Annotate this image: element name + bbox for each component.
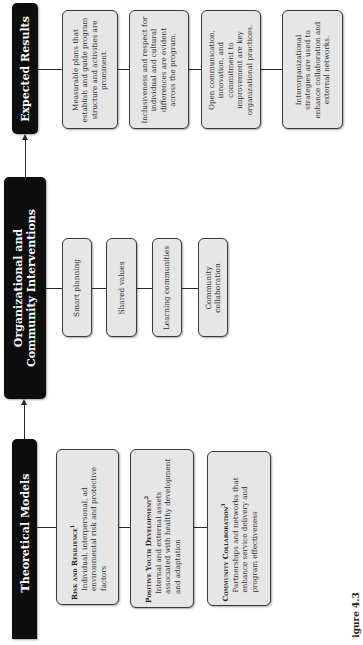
intervention-text-2: Shared values (117, 240, 126, 335)
theory-desc-1: Individual, interpersonal, ad environmen… (79, 454, 107, 600)
interventions-title: Organizational and Community Interventio… (12, 177, 38, 399)
arrow-to-results-head-icon (22, 134, 28, 140)
intervention-text-1: Smart planning (72, 240, 81, 335)
intervention-box-4: Community collaboration (198, 238, 228, 337)
expected-results-title: Expected Results (19, 3, 32, 134)
theory-title-3: Community Collaboration3 (221, 503, 230, 601)
theory-box-3: Community Collaboration3 Partnerships an… (207, 451, 271, 606)
interventions-header: Organizational and Community Interventio… (4, 177, 46, 399)
intervention-box-3: Learning communities (152, 238, 182, 337)
theory-title-2: Positive Youth Development2 (144, 495, 153, 602)
figure-caption: igure 4.3 (351, 592, 361, 638)
expected-results-header: Expected Results (12, 3, 38, 134)
result-box-1: Measurable plans that establish and guid… (62, 10, 118, 129)
theory-desc-2: Internal and external assets associated … (154, 455, 182, 603)
result-text-3: Open communication, innovation, and comm… (207, 20, 254, 120)
theory-box-1: Risk and Resilience1 Individual, interpe… (56, 449, 119, 605)
result-box-2: Inclusiveness and respect for individual… (129, 10, 189, 129)
result-text-1: Measurable plans that establish and guid… (71, 16, 109, 124)
arrow-to-interventions-head-icon (21, 399, 27, 405)
result-box-4: Interorganizational strategies are used … (282, 10, 343, 129)
interventions-title-line2: Community Interventions (25, 177, 38, 399)
intervention-box-1: Smart planning (62, 238, 92, 337)
result-box-3: Open communication, innovation, and comm… (201, 10, 261, 129)
theory-box-2: Positive Youth Development2 Internal and… (130, 449, 194, 608)
intervention-text-4: Community collaboration (204, 258, 223, 318)
theoretical-models-title: Theoretical Models (18, 433, 31, 633)
theory-text-2: Positive Youth Development2 Internal and… (142, 455, 182, 603)
result-text-2: Inclusiveness and respect for individual… (140, 16, 178, 124)
theory-text-1: Risk and Resilience1 Individual, interpe… (67, 454, 107, 600)
figure-caption-wrap: igure 4.3 (350, 585, 362, 645)
intervention-text-3: Learning communities (162, 240, 171, 335)
theory-text-3: Community Collaboration3 Partnerships an… (219, 456, 259, 601)
theory-desc-3: Partnerships and networks that enhance s… (231, 456, 259, 601)
intervention-box-2: Shared values (106, 238, 137, 337)
theoretical-models-header: Theoretical Models (12, 439, 37, 639)
interventions-title-line1: Organizational and (12, 177, 25, 399)
theory-title-1: Risk and Resilience1 (70, 525, 79, 600)
result-text-4: Interorganizational strategies are used … (294, 18, 332, 122)
arrow-to-results-shaft (25, 138, 26, 177)
